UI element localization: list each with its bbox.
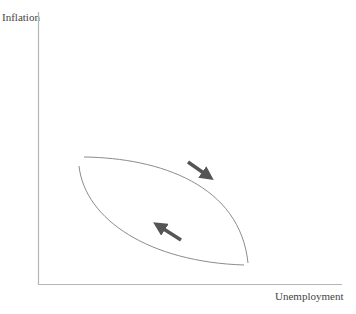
- diagram-canvas: [0, 0, 356, 314]
- arrow-down-right-icon: [188, 162, 208, 176]
- lower-curve: [79, 166, 244, 265]
- arrow-up-left-icon: [159, 226, 181, 240]
- upper-curve: [84, 157, 248, 263]
